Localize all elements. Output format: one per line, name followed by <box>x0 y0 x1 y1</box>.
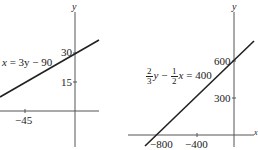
right-equation-line <box>145 41 254 146</box>
graphs-canvas <box>0 0 258 150</box>
right-x-tick-neg400: −400 <box>185 139 208 150</box>
right-equation-label: 23y − 12x = 400 <box>145 67 212 86</box>
right-x-axis-label: x <box>254 129 258 137</box>
left-equation-line <box>0 40 99 97</box>
left-equation-label: x = 3y − 90 <box>2 57 52 68</box>
right-y-tick-600: 600 <box>214 56 231 67</box>
right-y-axis-label: y <box>232 2 236 12</box>
left-y-tick-30: 30 <box>61 47 72 58</box>
right-y-tick-300: 300 <box>214 93 231 104</box>
left-y-tick-15: 15 <box>61 77 72 88</box>
right-x-tick-neg800: −800 <box>150 139 173 150</box>
left-x-tick-neg45: −45 <box>15 115 32 126</box>
left-y-axis-label: y <box>72 2 76 12</box>
